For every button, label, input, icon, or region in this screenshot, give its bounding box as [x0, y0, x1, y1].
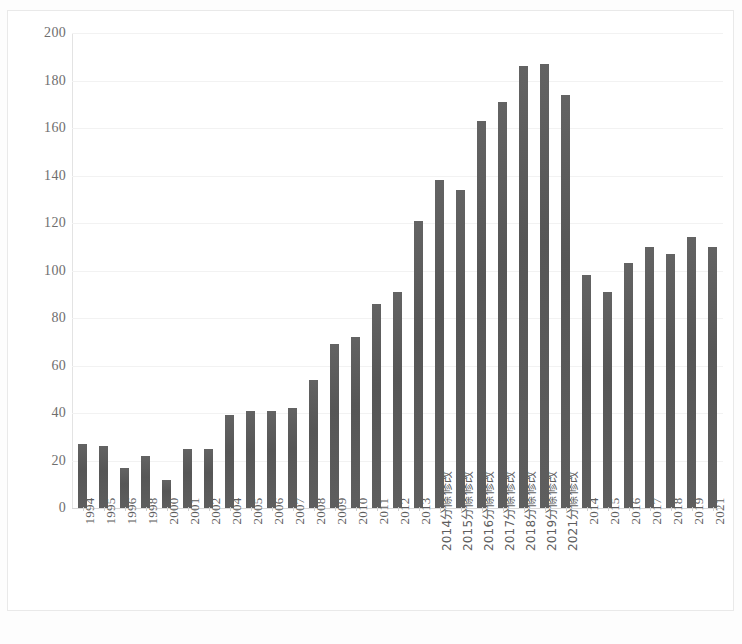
x-axis-tick: 2008: [306, 511, 322, 631]
x-axis-tick-label: 2017: [650, 498, 664, 525]
bar: [624, 263, 633, 508]
x-axis-tick-label: 2006: [272, 498, 286, 525]
y-axis-tick-label: 140: [44, 169, 66, 183]
x-axis-tick: 1994: [75, 511, 91, 631]
x-axis-tick-label: 2014: [587, 498, 601, 525]
x-axis-tick: 2014: [579, 511, 595, 631]
x-axis-tick: 1995: [96, 511, 112, 631]
x-axis-tick: 2017: [642, 511, 658, 631]
y-axis-tick-label: 120: [44, 216, 66, 230]
x-axis-tick-label: 2008: [314, 498, 328, 525]
x-axis-label-group: 1994199519961998200020012002200420052006…: [72, 511, 723, 636]
bar: [435, 180, 444, 508]
x-axis-tick-label: 2021: [713, 498, 727, 525]
bar: [645, 247, 654, 508]
x-axis-tick-label: 1995: [104, 498, 118, 525]
y-axis-tick-label: 20: [51, 454, 66, 468]
x-axis-tick: 2021: [705, 511, 721, 631]
x-axis-tick: 2016分條修改: [474, 511, 490, 631]
bar: [225, 415, 234, 508]
x-axis-tick: 2016: [621, 511, 637, 631]
x-axis-tick-label: 2011: [377, 498, 391, 524]
bar: [330, 344, 339, 508]
bar: [582, 275, 591, 508]
chart-figure: 200180160140120100806040200 199419951996…: [0, 0, 742, 644]
x-axis-tick-label: 1996: [125, 498, 139, 525]
y-axis-tick-label: 40: [51, 406, 66, 420]
x-axis-tick-label: 2015: [608, 498, 622, 525]
bar: [246, 411, 255, 508]
x-axis-tick-label: 2012: [398, 498, 412, 525]
bar: [687, 237, 696, 508]
x-axis-tick: 2021分條修改: [558, 511, 574, 631]
bar: [666, 254, 675, 508]
x-axis-tick: 2015: [600, 511, 616, 631]
bar: [267, 411, 276, 508]
x-axis-tick-label: 2018分條修改: [524, 471, 538, 551]
x-axis-tick: 2017分條修改: [495, 511, 511, 631]
x-axis-tick-label: 2016: [629, 498, 643, 525]
x-axis-tick: 2013: [411, 511, 427, 631]
x-axis-tick: 1998: [138, 511, 154, 631]
x-axis-tick: 2007: [285, 511, 301, 631]
x-axis-tick-label: 2017分條修改: [503, 471, 517, 551]
x-axis-tick: 2001: [180, 511, 196, 631]
x-axis-tick-label: 1994: [83, 498, 97, 525]
x-axis-tick: 2004: [222, 511, 238, 631]
x-axis-tick: 2009: [327, 511, 343, 631]
x-axis-tick-label: 2002: [209, 498, 223, 525]
x-axis-tick-label: 2018: [671, 498, 685, 525]
x-axis-tick-label: 2000: [167, 498, 181, 525]
x-axis-tick: 2005: [243, 511, 259, 631]
x-axis-tick: 2018分條修改: [516, 511, 532, 631]
x-axis-tick: 2019: [684, 511, 700, 631]
bar-series: [72, 33, 723, 508]
x-axis-tick-label: 2004: [230, 498, 244, 525]
y-axis-tick-label: 0: [59, 501, 66, 515]
x-axis-tick-label: 2013: [419, 498, 433, 525]
x-axis-tick: 2018: [663, 511, 679, 631]
x-axis-tick: 2002: [201, 511, 217, 631]
x-axis-tick: 2011: [369, 511, 385, 631]
x-axis-tick: 2010: [348, 511, 364, 631]
x-axis-tick: 2019分條修改: [537, 511, 553, 631]
bar: [309, 380, 318, 508]
x-axis-tick-label: 2016分條修改: [482, 471, 496, 551]
bar: [708, 247, 717, 508]
y-axis-tick-label: 200: [44, 26, 66, 40]
bar: [372, 304, 381, 508]
bar: [519, 66, 528, 508]
bar: [498, 102, 507, 508]
x-axis-tick-label: 2019分條修改: [545, 471, 559, 551]
x-axis-tick-label: 2019: [692, 498, 706, 525]
x-axis-tick-label: 2005: [251, 498, 265, 525]
x-axis-tick-label: 2015分條修改: [461, 471, 475, 551]
x-axis-tick-label: 2009: [335, 498, 349, 525]
bar: [456, 190, 465, 508]
bar: [414, 221, 423, 508]
y-axis-tick-label: 100: [44, 264, 66, 278]
y-axis-tick-label: 160: [44, 121, 66, 135]
x-axis-tick-label: 2007: [293, 498, 307, 525]
x-axis-tick: 2006: [264, 511, 280, 631]
x-axis-tick: 2014分條修改: [432, 511, 448, 631]
bar: [603, 292, 612, 508]
y-axis-tick-label: 60: [51, 359, 66, 373]
x-axis-tick-label: 2010: [356, 498, 370, 525]
x-axis-tick: 2015分條修改: [453, 511, 469, 631]
bar: [477, 121, 486, 508]
x-axis-tick-label: 2001: [188, 498, 202, 525]
x-axis-tick: 2000: [159, 511, 175, 631]
y-axis-tick-label: 180: [44, 74, 66, 88]
bar: [288, 408, 297, 508]
bar: [561, 95, 570, 508]
x-axis-tick: 1996: [117, 511, 133, 631]
x-axis-tick-label: 2014分條修改: [440, 471, 454, 551]
bar: [540, 64, 549, 508]
x-axis-tick-label: 1998: [146, 498, 160, 525]
x-axis-tick: 2012: [390, 511, 406, 631]
bar: [351, 337, 360, 508]
bar: [393, 292, 402, 508]
x-axis-tick-label: 2021分條修改: [566, 471, 580, 551]
y-axis-tick-label: 80: [51, 311, 66, 325]
